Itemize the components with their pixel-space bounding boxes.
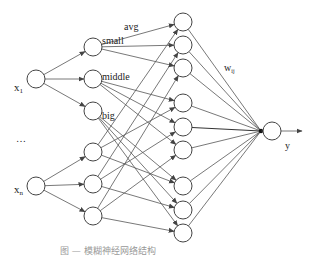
output-label-y: y [285, 140, 290, 151]
membership-node [84, 102, 102, 120]
rule-node [174, 141, 192, 159]
fuzzy-neural-network-diagram: x1 … xn small middle big avg wij y [0, 0, 317, 256]
avg-label: avg [124, 21, 138, 32]
membership-node [84, 175, 102, 193]
connection-edge [44, 83, 85, 106]
connection-edge [189, 131, 261, 204]
connection-edge [100, 117, 176, 180]
connection-edge [100, 155, 175, 210]
connection-edge [98, 76, 179, 209]
input-node [27, 177, 45, 195]
input-label-xn: xn [14, 183, 24, 197]
connection-edge [102, 218, 174, 232]
connection-edge [188, 131, 261, 226]
connection-edge [102, 49, 174, 66]
connection-edge [190, 131, 261, 181]
rule-node [174, 59, 192, 77]
rule-node [174, 13, 192, 31]
membership-node [84, 38, 102, 56]
connection-edge [188, 29, 261, 131]
connection-edge [44, 190, 85, 212]
rule-node [174, 36, 192, 54]
rule-node [174, 118, 192, 136]
input-edges [44, 51, 86, 211]
input-label-x1: x1 [14, 81, 24, 95]
ellipsis-label: … [16, 133, 26, 144]
connection-edge [191, 106, 261, 131]
output-edges [188, 29, 302, 226]
connection-edge [102, 186, 175, 207]
rule-node [174, 94, 192, 112]
connection-edge [99, 118, 177, 204]
connection-edge [192, 131, 261, 148]
membership-node [84, 207, 102, 225]
connection-edge [190, 74, 261, 131]
membership-label-middle: middle [102, 71, 130, 82]
rule-node [174, 177, 192, 195]
connection-edge [102, 81, 175, 100]
connection-edge [101, 155, 174, 183]
weight-label: wij [224, 62, 235, 74]
connection-edge [44, 51, 85, 74]
figure-caption: 图 — 模糊神经网络结构 [60, 244, 156, 256]
connection-edge [44, 157, 86, 182]
labels: x1 … xn small middle big avg wij y [14, 21, 290, 197]
rule-edges [98, 24, 179, 231]
rule-node [174, 224, 192, 242]
input-node [27, 70, 45, 88]
rule-node [174, 201, 192, 219]
membership-label-small: small [102, 35, 124, 46]
connection-edge [192, 127, 261, 131]
membership-label-big: big [102, 110, 115, 121]
connection-edge [45, 184, 84, 185]
membership-node [84, 70, 102, 88]
output-node [263, 122, 281, 140]
membership-node [84, 143, 102, 161]
